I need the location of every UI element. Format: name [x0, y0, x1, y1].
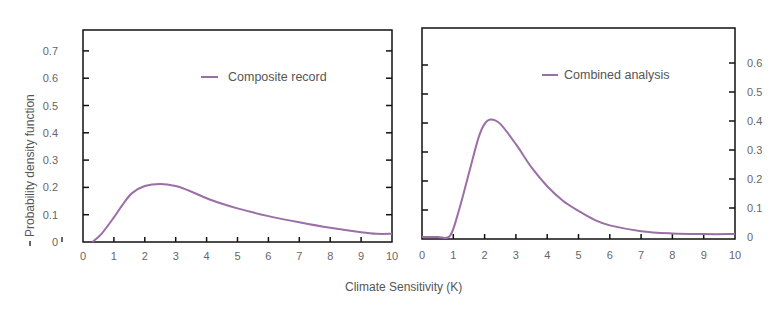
x-tick-label: 3	[513, 249, 519, 261]
x-tick-label: 2	[482, 249, 488, 261]
y-axis-title: Probability density function	[23, 94, 37, 237]
y-tick-label: 0.5	[747, 86, 762, 98]
x-tick-label: 5	[575, 249, 581, 261]
x-tick-label: 2	[142, 250, 148, 262]
combined-analysis-curve	[422, 120, 735, 239]
left-y-axis-ticks: 00.10.20.30.40.50.60.7	[43, 45, 392, 248]
x-tick-label: 1	[111, 250, 117, 262]
y-tick-label: 0.4	[43, 127, 58, 139]
left-legend: Composite record	[201, 70, 327, 84]
y-tick-label: 0.6	[43, 72, 58, 84]
y-tick-label: 0.1	[43, 209, 58, 221]
legend-label-composite-record: Composite record	[228, 70, 327, 84]
x-tick-label: 9	[358, 250, 364, 262]
climate-sensitivity-chart: 00.10.20.30.40.50.60.7 012345678910 Comp…	[0, 0, 778, 315]
right-legend: Combined analysis	[542, 68, 670, 82]
x-tick-label: 5	[234, 250, 240, 262]
x-tick-label: 7	[638, 249, 644, 261]
x-tick-label: 8	[327, 250, 333, 262]
x-tick-label: 8	[669, 249, 675, 261]
x-axis-title: Climate Sensitivity (K)	[345, 280, 462, 294]
x-tick-label: 3	[173, 250, 179, 262]
y-tick-label: 0.4	[747, 115, 762, 127]
y-tick-label: 0	[52, 236, 58, 248]
y-tick-label: 0.1	[747, 202, 762, 214]
left-plot-frame	[83, 30, 392, 242]
x-tick-label: 0	[419, 249, 425, 261]
right-panel-combined-analysis: 00.10.20.30.40.50.6 012345678910 Combine…	[419, 28, 762, 261]
right-x-axis-ticks: 012345678910	[419, 234, 741, 261]
x-tick-label: 4	[204, 250, 210, 262]
y-tick-label: 0.3	[747, 144, 762, 156]
y-tick-label: 0.7	[43, 45, 58, 57]
legend-label-combined-analysis: Combined analysis	[564, 68, 670, 82]
x-tick-label: 10	[729, 249, 741, 261]
y-tick-label: 0	[747, 231, 753, 243]
right-plot-frame	[422, 28, 735, 239]
x-tick-label: 9	[701, 249, 707, 261]
y-tick-label: 0.5	[43, 100, 58, 112]
x-tick-label: 7	[296, 250, 302, 262]
x-tick-label: 4	[544, 249, 550, 261]
left-x-axis-ticks: 012345678910	[80, 237, 398, 262]
x-tick-label: 1	[450, 249, 456, 261]
y-tick-label: 0.2	[43, 181, 58, 193]
x-tick-label: 6	[607, 249, 613, 261]
composite-record-curve	[92, 184, 392, 242]
y-tick-label: 0.3	[43, 154, 58, 166]
x-tick-label: 0	[80, 250, 86, 262]
x-tick-label: 10	[386, 250, 398, 262]
y-tick-label: 0.2	[747, 173, 762, 185]
y-tick-label: 0.6	[747, 57, 762, 69]
right-y-axis-ticks: 00.10.20.30.40.50.6	[422, 57, 762, 243]
x-tick-label: 6	[265, 250, 271, 262]
left-panel-composite-record: 00.10.20.30.40.50.60.7 012345678910 Comp…	[43, 30, 398, 262]
